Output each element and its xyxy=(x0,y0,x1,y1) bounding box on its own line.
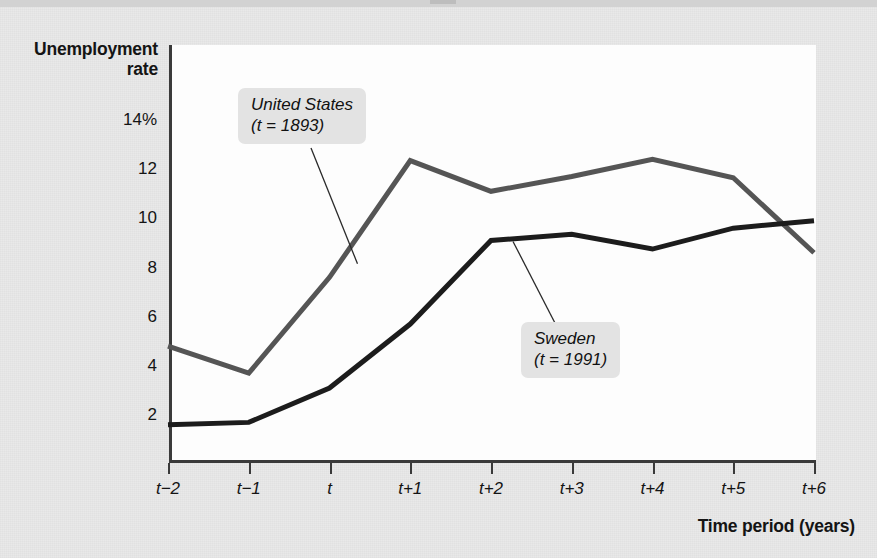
figure-canvas: Unemployment rate 14%12108642 t−2t−1tt+1… xyxy=(0,0,877,558)
x-tick-mark xyxy=(249,463,251,474)
x-tick-mark xyxy=(733,463,735,474)
x-tick-mark xyxy=(814,463,816,474)
annotation-sweden-name: Sweden xyxy=(534,329,595,348)
x-tick-label: t+3 xyxy=(560,479,584,499)
x-tick-mark xyxy=(572,463,574,474)
x-tick-mark xyxy=(330,463,332,474)
x-tick-label: t+2 xyxy=(479,479,503,499)
annotation-sweden-period: (t = 1991) xyxy=(534,350,607,371)
x-tick-label: t−2 xyxy=(156,479,180,499)
x-tick-mark xyxy=(491,463,493,474)
x-tick-mark xyxy=(410,463,412,474)
leader-line-sweden xyxy=(513,241,556,325)
annotation-leader-lines xyxy=(0,0,877,558)
x-tick-label: t+5 xyxy=(721,479,745,499)
x-tick-label: t+4 xyxy=(640,479,664,499)
leader-line-united-states xyxy=(311,148,358,264)
x-tick-label: t+1 xyxy=(398,479,422,499)
annotation-us-name: United States xyxy=(251,95,353,114)
x-axis-title: Time period (years) xyxy=(698,516,855,537)
x-tick-label: t−1 xyxy=(237,479,261,499)
x-tick-mark xyxy=(653,463,655,474)
annotation-sweden: Sweden (t = 1991) xyxy=(521,322,620,378)
x-tick-label: t xyxy=(327,479,332,499)
x-tick-mark xyxy=(168,463,170,474)
annotation-united-states: United States (t = 1893) xyxy=(238,88,366,144)
annotation-us-period: (t = 1893) xyxy=(251,116,353,137)
x-tick-label: t+6 xyxy=(802,479,826,499)
